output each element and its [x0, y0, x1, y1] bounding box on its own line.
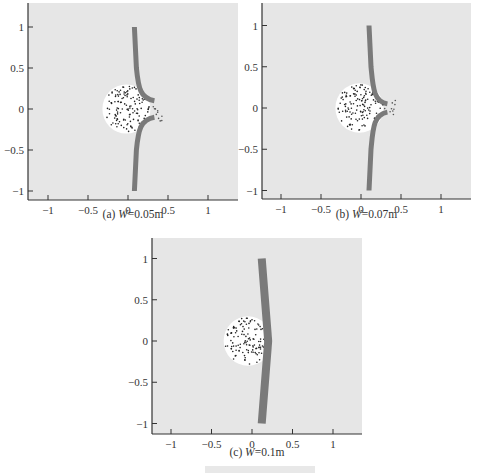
particle [351, 86, 353, 88]
particle [238, 350, 240, 352]
y-tick-label: 0 [19, 103, 25, 115]
particle [351, 128, 353, 130]
particle [114, 117, 116, 119]
particle [225, 345, 227, 347]
particle [112, 122, 114, 124]
particle [346, 92, 348, 94]
particle [342, 99, 344, 101]
particle [228, 329, 230, 331]
particle [111, 103, 113, 105]
particle [350, 123, 352, 125]
particle [362, 112, 364, 114]
particle [376, 112, 378, 114]
particle [261, 352, 263, 354]
particle [251, 319, 253, 321]
particle [111, 92, 113, 94]
particle [118, 108, 120, 110]
particle [252, 351, 254, 353]
particle [126, 124, 128, 126]
particle [127, 90, 129, 92]
particle [121, 101, 123, 103]
particle [235, 327, 237, 329]
debris-particle [159, 120, 161, 122]
particle [260, 341, 262, 343]
particle [248, 327, 250, 329]
particle [248, 352, 250, 354]
particle [351, 108, 353, 110]
particle [134, 101, 136, 103]
particle [260, 338, 262, 340]
particle [142, 99, 144, 101]
particle [115, 115, 117, 117]
particle [116, 109, 118, 111]
particle [239, 347, 241, 349]
particle [123, 119, 125, 121]
particle [368, 109, 370, 111]
x-tick-label: 1 [438, 203, 444, 215]
particle [260, 348, 262, 350]
particle [116, 126, 118, 128]
particle [342, 111, 344, 113]
debris-particle [161, 116, 163, 118]
particle [356, 109, 358, 111]
particle [134, 110, 136, 112]
particle [117, 94, 119, 96]
particle [231, 332, 233, 334]
particle [133, 119, 135, 121]
particle [262, 345, 264, 347]
x-tick-label: −0.5 [78, 204, 98, 216]
particle [362, 104, 364, 106]
y-tick-label: −1 [136, 418, 148, 430]
particle [251, 351, 253, 353]
particle [364, 95, 366, 97]
particle [245, 342, 247, 344]
particle [248, 323, 250, 325]
particle [363, 109, 365, 111]
particle [356, 91, 358, 93]
particle [258, 346, 260, 348]
particle [345, 109, 347, 111]
particle [137, 109, 139, 111]
particle [339, 102, 341, 104]
particle [366, 115, 368, 117]
particle [128, 131, 130, 133]
particle [255, 348, 257, 350]
particle [357, 120, 359, 122]
particle [121, 125, 123, 127]
x-tick-label: 0.5 [286, 438, 300, 450]
particle [227, 334, 229, 336]
particle [353, 87, 355, 89]
particle [249, 339, 251, 341]
particle [130, 126, 132, 128]
y-tick-label: 1 [19, 21, 25, 33]
particle [365, 91, 367, 93]
particle [109, 113, 111, 115]
particle [138, 99, 140, 101]
particle [356, 85, 358, 87]
particle [245, 336, 247, 338]
particle [120, 89, 122, 91]
particle [129, 114, 131, 116]
particle [244, 357, 246, 359]
particle [240, 344, 242, 346]
particle [345, 111, 347, 113]
particle [119, 121, 121, 123]
particle [347, 126, 349, 128]
particle [148, 106, 150, 108]
debris-particle [393, 109, 395, 111]
particle [260, 329, 262, 331]
x-tick-label: −1 [275, 203, 287, 215]
particle [370, 104, 372, 106]
particle [116, 120, 118, 122]
debris-particle [392, 102, 394, 104]
y-tick-label: 0 [143, 335, 149, 347]
particle [135, 88, 137, 90]
particle [244, 321, 246, 323]
y-tick-label: −0.5 [128, 376, 148, 388]
particle [359, 105, 361, 107]
particle [352, 124, 354, 126]
particle [341, 120, 343, 122]
figure-caption-fragment [205, 466, 315, 473]
particle [247, 333, 249, 335]
particle [236, 330, 238, 332]
